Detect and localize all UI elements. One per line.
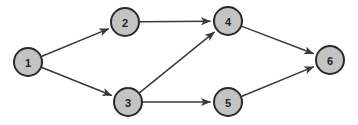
node-label-1: 1 — [25, 57, 31, 69]
node-label-3: 3 — [125, 97, 131, 109]
node-label-2: 2 — [122, 17, 128, 29]
node-2: 2 — [111, 8, 139, 36]
node-1: 1 — [14, 48, 42, 76]
edge-1-to-2 — [42, 29, 108, 56]
edge-4-to-6 — [242, 26, 313, 53]
directed-graph-diagram: 123456 — [0, 0, 358, 125]
node-label-6: 6 — [327, 55, 333, 67]
node-4: 4 — [214, 7, 242, 35]
node-label-4: 4 — [225, 16, 232, 28]
node-label-5: 5 — [225, 97, 231, 109]
edge-5-to-6 — [242, 67, 313, 96]
node-6: 6 — [316, 46, 344, 74]
edge-1-to-3 — [42, 68, 111, 96]
node-5: 5 — [214, 88, 242, 116]
edge-3-to-4 — [140, 32, 214, 92]
edge-2-to-4 — [140, 21, 210, 22]
graph-canvas: 123456 — [0, 0, 358, 125]
node-3: 3 — [114, 88, 142, 116]
edges-layer — [42, 21, 313, 102]
